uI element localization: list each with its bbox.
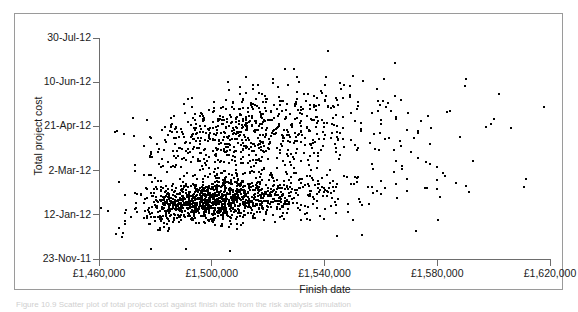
x-tick-label: £1,540,000 [270,267,380,279]
x-tick-label: £1,620,000 [495,267,578,279]
y-tick-label: 30-Jul-12 [21,32,91,43]
plot-area [99,38,550,259]
x-tick-mark [437,260,438,266]
x-tick-label: £1,500,000 [157,267,267,279]
x-tick-label: £1,460,000 [44,267,154,279]
chart-frame: 23-Nov-1112-Jan-122-Mar-1221-Apr-1210-Ju… [14,13,563,290]
figure-caption: Figure 10.9 Scatter plot of total projec… [16,300,562,310]
x-axis-title: Finish date [99,283,551,295]
x-tick-mark [99,260,100,266]
y-tick-label: 23-Nov-11 [21,253,91,264]
x-tick-mark [211,260,212,266]
x-tick-mark [324,260,325,266]
y-axis-title: Total project cost [32,66,44,206]
scatter-points-layer [99,38,550,259]
x-tick-label: £1,580,000 [382,267,492,279]
figure-container: 23-Nov-1112-Jan-122-Mar-1221-Apr-1210-Ju… [0,0,578,312]
y-tick-label: 12-Jan-12 [21,209,91,220]
x-axis-line [99,259,551,260]
x-tick-mark [550,260,551,266]
